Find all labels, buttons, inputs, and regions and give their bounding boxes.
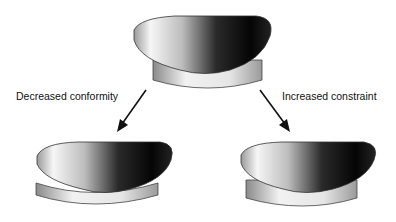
right-component: [241, 142, 376, 206]
label-decreased-conformity: Decreased conformity: [16, 90, 118, 102]
left-component: [36, 142, 172, 204]
diagram-graphics: [0, 0, 396, 222]
diagram: Decreased conformity Increased constrain…: [0, 0, 396, 222]
top-component: [134, 16, 271, 88]
label-increased-constraint: Increased constraint: [282, 90, 377, 102]
arrow-left-icon: [117, 90, 146, 132]
